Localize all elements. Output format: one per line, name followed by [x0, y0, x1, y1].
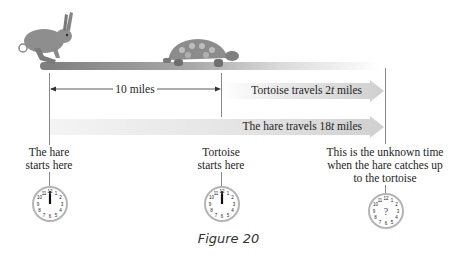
svg-text:10: 10	[209, 195, 215, 200]
catch-up-line	[385, 68, 386, 144]
question-mark-icon: ?	[384, 206, 389, 217]
svg-text:11: 11	[42, 191, 47, 196]
svg-text:10: 10	[37, 195, 43, 200]
hare-clock-connector	[49, 172, 50, 186]
unknown-time-clock: 121234567891011 ?	[367, 192, 405, 230]
svg-text:11: 11	[214, 191, 219, 196]
hare-travel-label: The hare travels 18t miles	[50, 116, 384, 138]
tortoise-start-clock: 121234567891011	[203, 185, 241, 223]
tortoise-illustration	[160, 36, 240, 72]
tortoise-travel-label: Tortoise travels 2t miles	[222, 80, 384, 102]
catch-up-label: This is the unknown timewhen the hare ca…	[325, 146, 445, 185]
hare-start-label: The harestarts here	[9, 146, 89, 172]
svg-text:12: 12	[383, 196, 389, 201]
figure-caption: Figure 20	[0, 231, 457, 246]
tortoise-clock-connector	[221, 172, 222, 186]
tortoise-start-label: Tortoisestarts here	[181, 146, 261, 172]
hare-start-clock: 121234567891011	[31, 185, 69, 223]
svg-text:10: 10	[373, 202, 379, 207]
distance-label: 10 miles	[100, 83, 170, 96]
hare-illustration	[14, 8, 84, 70]
svg-text:11: 11	[378, 198, 383, 203]
